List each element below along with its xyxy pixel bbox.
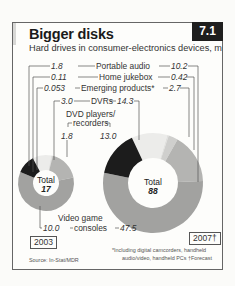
label-home-jukebox: Home jukebox [99, 72, 153, 82]
source-note: Source: In-Stat/MDR [29, 257, 79, 264]
label-portable-audio: Portable audio [96, 61, 150, 71]
value-2003-emerging-products: 0.053 [44, 83, 65, 93]
label-emerging-products: Emerging products* [81, 83, 155, 93]
label-video-game-line1: Video game [58, 213, 103, 223]
label-dvd-line2: recorders [73, 118, 108, 128]
value-2003-dvd: 1.8 [61, 131, 73, 141]
value-2003-home-jukebox: 0.11 [51, 72, 67, 82]
value-2007-dvd: 13.0 [100, 131, 116, 141]
total-2003: Total 17 [30, 176, 62, 194]
value-2003-video-game: 10.0 [43, 223, 59, 233]
value-2007-home-jukebox: 0.42 [171, 72, 187, 82]
value-2007-video-game: 47.5 [120, 223, 136, 233]
value-2003-portable-audio: 1.8 [51, 61, 63, 71]
total-2007-value: 88 [148, 186, 157, 196]
value-2003-dvrs: 3.0 [61, 96, 73, 106]
footnote-line1: *Including digital camcorders, handheld [112, 247, 206, 254]
value-2007-emerging-products: 2.7 [169, 83, 181, 93]
label-video-game-line2: consoles [74, 223, 107, 233]
total-2003-value: 17 [41, 184, 50, 194]
year-label-2007: 2007† [189, 232, 221, 245]
value-2007-dvrs: 14.3 [117, 96, 133, 106]
label-dvrs: DVRs [91, 96, 113, 106]
footnote-line2: audio/video, handheld PCs †Forecast [122, 255, 212, 262]
total-2007: Total 88 [137, 178, 169, 196]
year-label-2003: 2003 [30, 236, 57, 249]
value-2007-portable-audio: 10.2 [171, 61, 187, 71]
